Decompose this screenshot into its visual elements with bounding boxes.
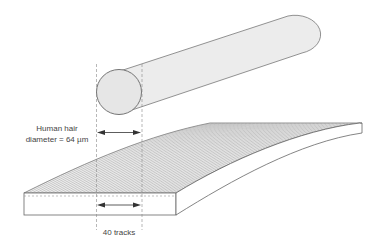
hair-cross-section	[97, 70, 142, 115]
hair-vs-tape-tracks-diagram: Human hair diameter = 64 µm 40 tracks	[0, 0, 381, 248]
human-hair-cylinder	[97, 15, 321, 114]
hair-label-line1: Human hair	[22, 124, 92, 133]
tracks-label: 40 tracks	[94, 228, 144, 237]
diameter-dimension-arrow	[97, 130, 141, 135]
hair-diameter-label: diameter = 64 µm	[17, 135, 97, 144]
